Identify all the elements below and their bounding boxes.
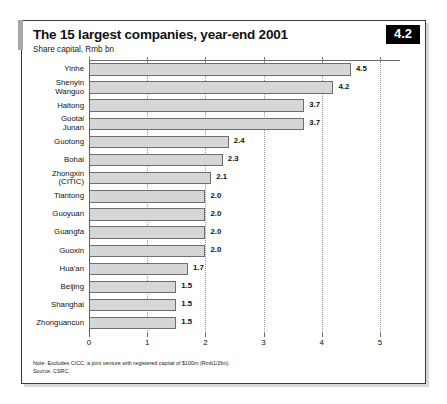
category-label: Guotai Junan [61,115,84,132]
page-title: The 15 largest companies, year-end 2001 [33,27,288,42]
bar-value-label: 1.7 [193,263,204,272]
bar-row: 1.5 [89,315,400,333]
x-axis-tick-label: 5 [378,338,382,347]
category-label: Shenyin Wanguo [55,79,84,96]
bar-row: 1.5 [89,279,400,297]
bar-row: 2.0 [89,242,400,260]
figure-accent-bar [18,20,23,50]
bar-value-label: 3.7 [309,100,320,109]
category-label: Yinhe [64,65,84,74]
category-label: Tiantong [54,192,84,201]
figure-note-line: Note: Excludes CICC, a joint venture wit… [33,359,230,367]
x-axis-tick [147,333,148,337]
bar-row: 2.0 [89,224,400,242]
category-label: Hua'an [60,265,84,274]
bar-value-label: 2.0 [210,227,221,236]
bar-row: 2.0 [89,206,400,224]
bar-row: 2.1 [89,170,400,188]
x-axis-tick-label: 0 [87,338,91,347]
bar [89,226,205,238]
figure-notes: Note: Excludes CICC, a joint venture wit… [33,359,230,375]
category-axis: YinheShenyin WanguoHaitongGuotai JunanGu… [22,61,84,333]
bar-value-label: 4.5 [356,64,367,73]
bar-value-label: 3.7 [309,118,320,127]
bar-value-label: 1.5 [181,317,192,326]
bar-value-label: 2.0 [210,245,221,254]
figure-number-badge: 4.2 [386,25,420,44]
bar [89,190,205,202]
x-axis-tick [264,333,265,337]
figure-subtitle: Share capital, Rmb bn [33,45,114,54]
category-label: Guotong [54,138,84,147]
bar-value-label: 2.4 [234,136,245,145]
bar-value-label: 2.1 [216,172,227,181]
bar-value-label: 2.0 [210,209,221,218]
bar-row: 3.7 [89,115,400,133]
x-axis-tick [380,333,381,337]
bar-row: 3.7 [89,97,400,115]
bar-value-label: 1.5 [181,299,192,308]
category-label: Guoyuan [52,210,84,219]
bar [89,281,176,293]
x-axis-tick-label: 1 [145,338,149,347]
chart-plot-area: 0123454.54.23.73.72.42.32.12.02.02.02.01… [89,61,400,333]
category-label: Guangfa [54,228,84,237]
category-label: Zhonguancun [36,319,84,328]
figure-header: The 15 largest companies, year-end 2001 … [22,21,425,65]
bar-row: 2.4 [89,134,400,152]
bar-value-label: 2.0 [210,191,221,200]
bar-row: 4.2 [89,79,400,97]
x-axis-tick-label: 2 [203,338,207,347]
bar [89,299,176,311]
bar-value-label: 2.3 [228,154,239,163]
bar [89,317,176,329]
figure-panel: The 15 largest companies, year-end 2001 … [21,20,426,384]
bar [89,245,205,257]
x-axis-tick [205,333,206,337]
x-axis-tick [322,333,323,337]
bar [89,136,229,148]
x-axis-tick-label: 3 [261,338,265,347]
category-label: Shanghai [51,301,84,310]
category-label: Zhongxin (CITIC) [52,170,84,187]
bar-row: 1.5 [89,297,400,315]
bar [89,99,304,111]
category-label: Haitong [57,102,84,111]
bar [89,208,205,220]
bar [89,172,211,184]
bar-row: 4.5 [89,61,400,79]
x-axis-tick-label: 4 [320,338,324,347]
x-axis-tick [89,333,90,337]
category-label: Guoxin [59,247,84,256]
bar-value-label: 4.2 [338,82,349,91]
bar-row: 2.0 [89,188,400,206]
bar [89,63,351,75]
bar [89,118,304,130]
figure-source-line: Source: CSRC. [33,367,230,375]
bar [89,263,188,275]
bar-row: 1.7 [89,260,400,278]
bar [89,81,333,93]
bar-value-label: 1.5 [181,281,192,290]
bar-row: 2.3 [89,152,400,170]
bar [89,154,223,166]
category-label: Beijing [61,283,84,292]
category-label: Bohai [64,156,84,165]
